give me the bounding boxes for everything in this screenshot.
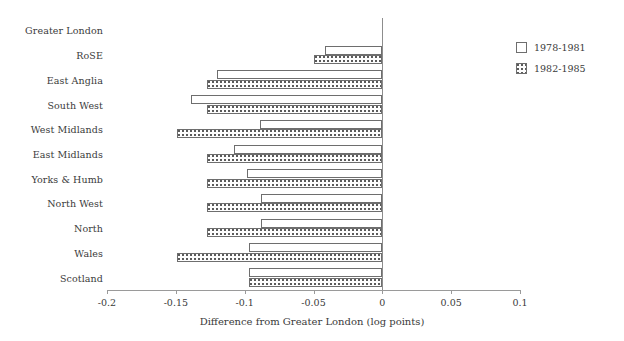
bar-2: [177, 129, 382, 138]
x-tick-mark: [314, 290, 315, 294]
x-tick-label: -0.1: [235, 297, 253, 308]
zero-baseline: [382, 18, 383, 290]
category-label: South West: [47, 99, 103, 110]
bar-1: [249, 268, 383, 277]
x-tick-mark: [176, 290, 177, 294]
bar-2: [314, 55, 383, 64]
legend-item[interactable]: 1978-1981: [516, 42, 586, 53]
category-axis: Greater LondonRoSEEast AngliaSouth WestW…: [0, 0, 103, 341]
legend-swatch-icon: [516, 42, 527, 53]
bar-2: [207, 203, 382, 212]
legend-label: 1978-1981: [534, 42, 586, 53]
x-tick-mark: [245, 290, 246, 294]
bar-1: [325, 46, 383, 55]
bar-2: [207, 80, 382, 89]
x-tick-label: -0.2: [98, 297, 116, 308]
bar-1: [260, 120, 383, 129]
category-label: RoSE: [76, 50, 103, 61]
bar-2: [207, 228, 382, 237]
bar-1: [247, 169, 382, 178]
category-label: East Anglia: [47, 74, 103, 85]
legend-label: 1982-1985: [534, 63, 586, 74]
category-label: North: [74, 223, 103, 234]
x-tick-mark: [520, 290, 521, 294]
x-tick-label: -0.05: [301, 297, 325, 308]
category-label: Wales: [74, 247, 103, 258]
x-tick-mark: [451, 290, 452, 294]
bar-2: [177, 253, 382, 262]
x-axis-label: Difference from Greater London (log poin…: [0, 316, 624, 327]
bar-2: [207, 105, 382, 114]
x-tick-label: -0.15: [164, 297, 188, 308]
bar-1: [217, 70, 382, 79]
bar-2: [249, 278, 383, 287]
plot-area: -0.2-0.15-0.1-0.0500.050.1: [107, 18, 520, 290]
x-tick-mark: [382, 290, 383, 294]
bar-1: [261, 194, 382, 203]
bar-2: [207, 179, 382, 188]
bar-chart: Greater LondonRoSEEast AngliaSouth WestW…: [0, 0, 624, 341]
bar-2: [207, 154, 382, 163]
x-tick-mark: [107, 290, 108, 294]
legend-item[interactable]: 1982-1985: [516, 63, 586, 74]
category-label: Yorks & Humb: [31, 173, 103, 184]
bar-1: [234, 145, 383, 154]
category-label: Scotland: [60, 272, 103, 283]
category-label: North West: [47, 198, 103, 209]
bar-1: [261, 219, 382, 228]
bar-1: [249, 243, 383, 252]
category-label: Greater London: [25, 25, 103, 36]
bar-1: [191, 95, 382, 104]
legend-swatch-icon: [516, 63, 527, 74]
x-tick-label: 0.05: [441, 297, 462, 308]
category-label: West Midlands: [31, 124, 103, 135]
x-tick-label: 0.1: [512, 297, 527, 308]
category-label: East Midlands: [33, 149, 103, 160]
chart-legend: 1978-19811982-1985: [516, 42, 586, 84]
x-tick-label: 0: [379, 297, 385, 308]
